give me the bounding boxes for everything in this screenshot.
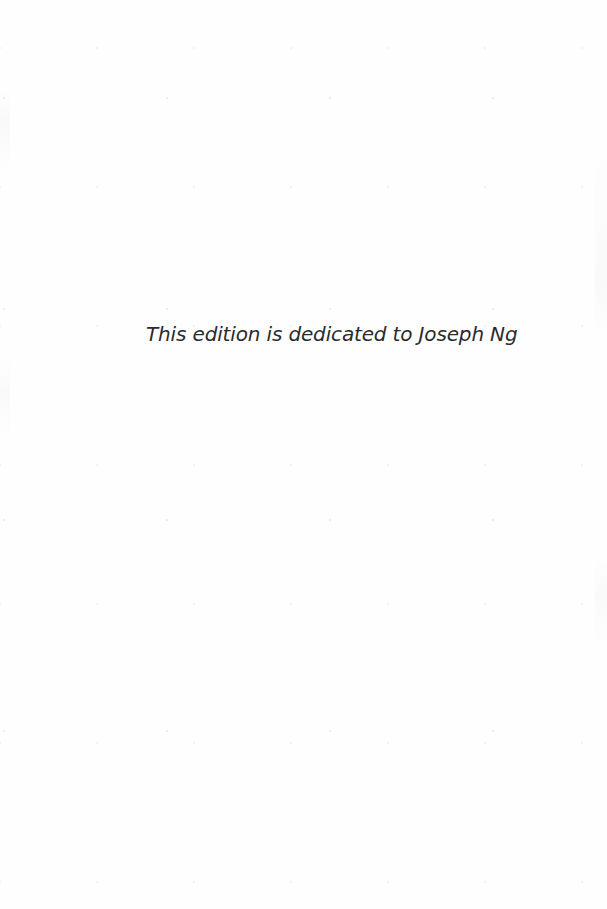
dedication-page: This edition is dedicated to Joseph Ng — [0, 0, 607, 909]
dedication-text: This edition is dedicated to Joseph Ng — [146, 321, 446, 347]
scan-edge-artifact-left — [0, 90, 10, 650]
scan-edge-artifact-right — [595, 150, 607, 770]
scan-noise-texture — [0, 0, 607, 909]
